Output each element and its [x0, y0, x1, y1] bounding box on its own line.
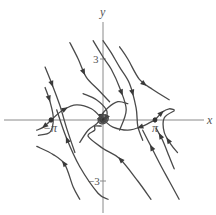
trajectory-upper-right-1 [120, 47, 170, 100]
trajectory-curve [143, 130, 179, 199]
trajectory-upper-left-2 [45, 67, 75, 152]
axes: x y −ππ 3−3 [4, 5, 213, 213]
y-tick-label: −3 [88, 175, 100, 187]
phase-portrait-diagram: x y −ππ 3−3 [0, 0, 216, 215]
trajectory-curve [45, 67, 75, 152]
equilibrium-saddle [153, 118, 158, 123]
trajectory-separatrix-right-in [105, 120, 155, 131]
direction-arrow-icon [164, 136, 172, 144]
trajectory-curve [105, 120, 155, 130]
direction-arrow-icon [80, 68, 87, 76]
direction-arrow-icon [48, 80, 55, 88]
trajectory-curve [70, 43, 110, 102]
direction-arrow-icon [148, 143, 156, 151]
y-tick-label: 3 [93, 53, 99, 65]
direction-arrow-icon [46, 95, 53, 103]
trajectory-upper-left-3 [70, 43, 110, 102]
trajectory-separatrix-left-out [51, 105, 101, 120]
trajectory-curve [120, 47, 170, 100]
x-axis-label: x [206, 113, 213, 127]
trajectory-curve [51, 105, 101, 120]
y-axis-label: y [99, 5, 106, 19]
direction-arrow-icon [118, 89, 125, 97]
equilibrium-saddle [49, 118, 54, 123]
trajectory-lower-right-1 [143, 130, 179, 199]
direction-arrow-icon [129, 89, 136, 97]
